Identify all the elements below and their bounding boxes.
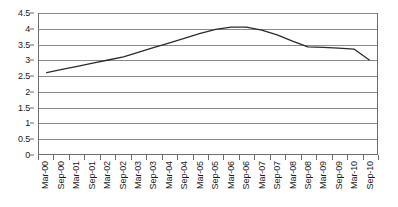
x-tick-mark xyxy=(223,155,224,160)
x-tick-label: Sep-06 xyxy=(242,161,251,189)
y-tick-label: 0.5 xyxy=(18,134,30,144)
x-tick-mark xyxy=(69,155,70,160)
x-tick-label: Mar-09 xyxy=(319,161,328,189)
x-tick-label: Sep-04 xyxy=(180,161,189,189)
x-tick-label: Sep-02 xyxy=(119,161,128,189)
plot-area xyxy=(38,13,378,155)
y-tick-mark xyxy=(30,155,34,156)
x-tick-mark xyxy=(316,155,317,160)
line-chart: 00.511.522.533.544.5 Mar-00Sep-00Mar-01S… xyxy=(0,0,398,207)
x-tick-label: Mar-04 xyxy=(165,161,174,189)
y-tick-mark xyxy=(30,139,34,140)
x-tick-mark xyxy=(115,155,116,160)
x-tick-label: Sep-01 xyxy=(88,161,97,189)
x-tick-mark xyxy=(378,155,379,160)
x-tick-label: Sep-10 xyxy=(366,161,375,189)
x-axis-ticks xyxy=(38,155,378,160)
y-tick-mark xyxy=(30,28,34,29)
x-tick-label: Mar-05 xyxy=(196,161,205,189)
x-tick-mark xyxy=(84,155,85,160)
y-tick-mark xyxy=(30,123,34,124)
y-tick-label: 4.5 xyxy=(18,8,30,18)
y-tick-mark xyxy=(30,13,34,14)
y-tick-mark xyxy=(30,44,34,45)
x-tick-mark xyxy=(332,155,333,160)
x-tick-label: Mar-10 xyxy=(350,161,359,189)
x-tick-mark xyxy=(270,155,271,160)
x-tick-label: Mar-06 xyxy=(227,161,236,189)
y-tick-mark xyxy=(30,107,34,108)
x-tick-mark xyxy=(347,155,348,160)
x-tick-mark xyxy=(177,155,178,160)
x-tick-mark xyxy=(208,155,209,160)
x-tick-label: Sep-08 xyxy=(304,161,313,189)
x-tick-label: Sep-05 xyxy=(211,161,220,189)
y-tick-mark xyxy=(30,60,34,61)
x-tick-label: Sep-09 xyxy=(335,161,344,189)
y-axis: 00.511.522.533.544.5 xyxy=(0,13,34,155)
x-tick-mark xyxy=(162,155,163,160)
x-tick-label: Mar-01 xyxy=(72,161,81,189)
x-tick-mark xyxy=(239,155,240,160)
x-tick-label: Sep-00 xyxy=(57,161,66,189)
x-tick-mark xyxy=(285,155,286,160)
x-tick-label: Mar-08 xyxy=(289,161,298,189)
x-tick-mark xyxy=(38,155,39,160)
x-tick-mark xyxy=(53,155,54,160)
x-axis: Mar-00Sep-00Mar-01Sep-01Mar-02Sep-02Mar-… xyxy=(38,161,378,207)
series-layer xyxy=(39,13,377,154)
x-tick-label: Sep-07 xyxy=(273,161,282,189)
x-tick-mark xyxy=(363,155,364,160)
y-tick-label: 1.5 xyxy=(18,103,30,113)
y-tick-mark xyxy=(30,91,34,92)
x-tick-mark xyxy=(131,155,132,160)
x-tick-mark xyxy=(254,155,255,160)
x-tick-label: Mar-03 xyxy=(134,161,143,189)
data-line xyxy=(47,27,370,72)
x-tick-label: Mar-02 xyxy=(103,161,112,189)
y-tick-mark xyxy=(30,76,34,77)
x-tick-mark xyxy=(301,155,302,160)
x-tick-mark xyxy=(146,155,147,160)
x-tick-mark xyxy=(193,155,194,160)
y-tick-label: 3.5 xyxy=(18,40,30,50)
x-tick-label: Sep-03 xyxy=(149,161,158,189)
y-tick-label: 2.5 xyxy=(18,71,30,81)
x-tick-label: Mar-00 xyxy=(41,161,50,189)
x-tick-mark xyxy=(100,155,101,160)
x-tick-label: Mar-07 xyxy=(258,161,267,189)
